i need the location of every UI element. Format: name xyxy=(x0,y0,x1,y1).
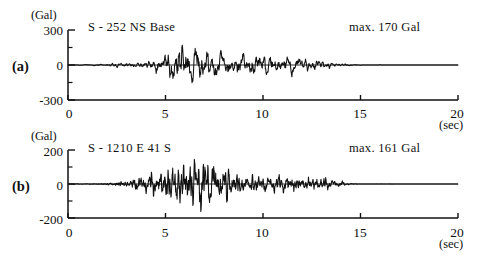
panel-b: (Gal) (b) 200 0 -200 S - 1210 E 41 S max… xyxy=(0,121,479,255)
waveform-plot-b xyxy=(0,121,479,255)
waveform-plot-a xyxy=(0,0,479,128)
seismic-accelerogram-figure: (Gal) (a) 300 0 -300 S - 252 NS Base max… xyxy=(0,0,479,255)
panel-a: (Gal) (a) 300 0 -300 S - 252 NS Base max… xyxy=(0,0,479,128)
